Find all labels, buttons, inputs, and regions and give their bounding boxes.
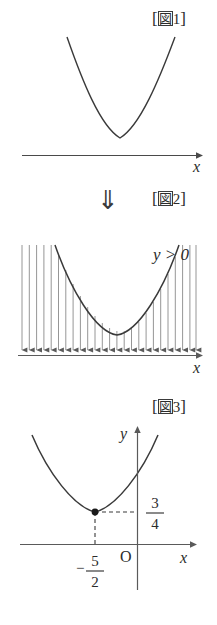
parabola-curve: [32, 435, 158, 512]
parabola-curve: [67, 37, 175, 138]
vertex-x-value-fraction: − 5 2: [76, 553, 104, 590]
vertex-point: [92, 509, 99, 516]
figure-2-condition-label: y > 0: [151, 245, 190, 264]
figure-1-plot: x: [0, 0, 217, 175]
y-axis-arrowhead: [134, 426, 140, 433]
figure-3-tag: [図3]: [152, 398, 186, 415]
figure-2-tag-kanji: 図: [158, 191, 173, 206]
figure-3-tag-bracket-close: ]: [180, 397, 186, 416]
vertex-y-numerator: 3: [151, 495, 159, 511]
figure-2-tag-bracket-close: ]: [180, 189, 186, 208]
figure-3-tag-kanji: 図: [158, 399, 173, 414]
figure-2-tag: [図2]: [152, 190, 186, 207]
figure-sheet: [図1] x ⇓ [図2]: [0, 0, 217, 625]
figure-3-x-axis-label: x: [179, 549, 187, 566]
vertex-y-value-fraction: 3 4: [146, 495, 164, 532]
x-axis-arrowhead: [196, 352, 203, 358]
figure-2-plot: x y > 0: [0, 240, 217, 385]
vertex-x-numerator: 5: [91, 553, 99, 569]
vertex-x-minus-sign: −: [76, 560, 84, 576]
figure-3-y-axis-label: y: [118, 425, 128, 443]
origin-label: O: [120, 548, 132, 565]
vertex-y-denominator: 4: [151, 516, 159, 532]
x-axis-arrowhead: [190, 541, 197, 547]
figure-3-plot: x y O 3 4 − 5 2: [0, 425, 217, 625]
vertex-x-denominator: 2: [91, 574, 99, 590]
figure-1-x-axis-label: x: [192, 158, 200, 175]
double-down-arrow-icon: ⇓: [97, 187, 119, 213]
figure-2-x-axis-label: x: [192, 359, 200, 376]
